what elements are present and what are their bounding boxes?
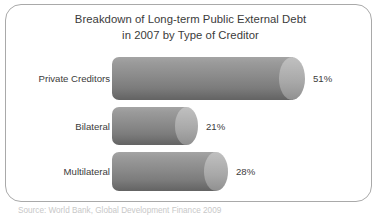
cylinder-body	[112, 152, 216, 191]
bar-cylinder[interactable]	[112, 152, 228, 191]
bar-category-label: Bilateral	[75, 121, 110, 132]
bar-row: Bilateral 21%	[0, 107, 381, 145]
bar-category-label: Multilateral	[64, 166, 110, 177]
chart-title-line-2: in 2007 by Type of Creditor	[0, 28, 381, 44]
cylinder-end-cap	[279, 57, 305, 100]
bar-cylinder[interactable]	[112, 107, 198, 145]
plot-area: Private Creditors 51% Bilateral 21% Mult…	[0, 52, 381, 197]
source-caption: Source: World Bank, Global Development F…	[18, 206, 363, 215]
chart-figure: Breakdown of Long-term Public External D…	[0, 0, 381, 215]
bar-value-label: 51%	[313, 73, 332, 84]
bar-row: Private Creditors 51%	[0, 57, 381, 100]
cylinder-end-cap	[204, 152, 228, 191]
cylinder-end-cap	[175, 107, 198, 145]
chart-title-line-1: Breakdown of Long-term Public External D…	[0, 12, 381, 28]
cylinder-body	[112, 57, 293, 100]
bar-value-label: 21%	[206, 121, 225, 132]
bar-cylinder[interactable]	[112, 57, 305, 100]
bar-value-label: 28%	[236, 166, 255, 177]
bar-row: Multilateral 28%	[0, 152, 381, 191]
chart-title: Breakdown of Long-term Public External D…	[0, 12, 381, 43]
bar-category-label: Private Creditors	[39, 73, 110, 84]
